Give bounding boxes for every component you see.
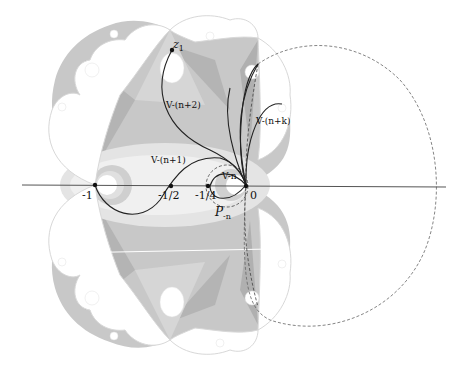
v-n-plus-2-label: V-(n+2) xyxy=(165,100,201,110)
v-n-plus-k-label: V-(n+k) xyxy=(255,116,291,126)
tick-label-zero: 0 xyxy=(250,189,257,202)
tick-label-neg-quarter: -1/4 xyxy=(195,189,216,202)
v-n-plus-1-label: V-(n+1) xyxy=(150,155,186,165)
tick-label-neg-half: -1/2 xyxy=(158,189,179,202)
limit-set-diagram: -1 -1/2 -1/4 0 z1 V-(n+2) V-(n+1) V-n V-… xyxy=(0,0,464,366)
v-n-label: V-n xyxy=(221,171,237,181)
tick-label-neg1: -1 xyxy=(82,189,93,202)
